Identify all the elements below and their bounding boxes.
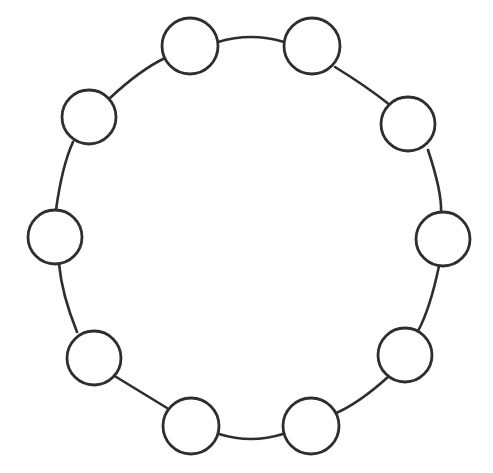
ring-node-circle xyxy=(67,331,121,385)
ring-node-circle xyxy=(283,398,339,454)
ring-node-circle xyxy=(381,97,435,151)
ring-node-circle xyxy=(62,90,116,144)
ring-node xyxy=(162,18,218,74)
ring-node xyxy=(28,210,82,264)
ring-node xyxy=(163,398,219,454)
ring-node xyxy=(283,398,339,454)
ring-node-circle xyxy=(162,18,218,74)
ring-node-circle xyxy=(163,398,219,454)
ring-node-circle xyxy=(28,210,82,264)
ring-node xyxy=(62,90,116,144)
ring-node xyxy=(381,97,435,151)
ring-node-circle xyxy=(284,18,340,74)
ring-node xyxy=(416,212,470,266)
ring-graph-canvas xyxy=(0,0,493,473)
ring-node xyxy=(67,331,121,385)
ring-graph-figure xyxy=(0,0,493,473)
ring-node xyxy=(284,18,340,74)
ring-node-circle xyxy=(378,328,432,382)
ring-node xyxy=(378,328,432,382)
ring-node-circle xyxy=(416,212,470,266)
